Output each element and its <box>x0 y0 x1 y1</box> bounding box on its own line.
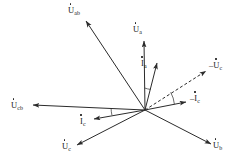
label-u-a: Ua <box>133 25 142 34</box>
label-u-b: Ub <box>213 141 222 150</box>
vector-u-a <box>144 41 145 110</box>
vector-u-cb <box>33 105 145 110</box>
phasor-canvas <box>0 0 241 165</box>
label-neg-u-c: –Uc <box>209 61 222 70</box>
arc-ua-ia <box>145 88 151 89</box>
label-u-cb: Ucb <box>11 101 23 110</box>
arc-negic-neguc <box>171 92 175 104</box>
label-u-ab: Uab <box>68 6 80 15</box>
label-i-a: Ia <box>141 59 147 68</box>
label-neg-i-c: –Ic <box>190 94 200 103</box>
vector-group <box>33 21 211 145</box>
label-u-c: Uc <box>62 142 71 151</box>
arc-ucb-ic <box>111 109 112 116</box>
vector-u-c <box>77 110 145 145</box>
vector-u-b <box>145 110 211 144</box>
label-i-c: Ic <box>80 117 86 126</box>
vector-i-c <box>94 110 145 119</box>
vector-u-ab <box>86 21 145 110</box>
phasor-diagram: Uab Ua Ia –Uc –Ic Ucb Ic Uc Ub <box>0 0 241 165</box>
